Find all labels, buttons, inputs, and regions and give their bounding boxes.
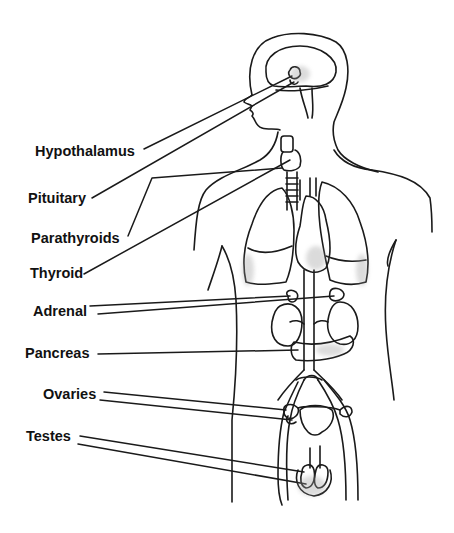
label-ovaries: Ovaries — [43, 387, 96, 402]
endocrine-diagram: Hypothalamus Pituitary Parathyroids Thyr… — [0, 0, 454, 533]
head-outline — [244, 33, 378, 172]
torso-outline — [194, 132, 432, 502]
label-thyroid: Thyroid — [30, 266, 83, 281]
trachea-thyroid — [281, 136, 301, 210]
pancreas-leader — [98, 350, 298, 354]
thyroid-leader — [84, 160, 290, 274]
label-testes: Testes — [26, 429, 71, 444]
adrenal-leader-2 — [98, 296, 334, 314]
label-parathyroids: Parathyroids — [31, 231, 120, 246]
label-pancreas: Pancreas — [25, 346, 90, 361]
parathyroids-leader — [128, 168, 282, 236]
testes-leader-1 — [80, 436, 304, 472]
hypothalamus-leader — [144, 76, 292, 149]
testes-leader-2 — [78, 444, 306, 484]
ovaries-leader-1 — [104, 392, 286, 410]
shading — [242, 66, 368, 496]
ovaries-leader-2 — [100, 400, 292, 420]
ovaries-uterus — [284, 405, 352, 435]
label-hypothalamus: Hypothalamus — [35, 144, 135, 159]
label-pituitary: Pituitary — [28, 191, 86, 206]
pituitary-leader — [92, 82, 294, 198]
label-adrenal: Adrenal — [33, 304, 87, 319]
